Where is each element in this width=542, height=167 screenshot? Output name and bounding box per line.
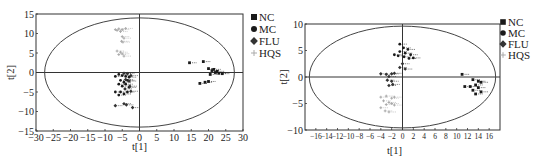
data-point (401, 62, 405, 66)
legend-label: HQS (508, 49, 530, 61)
data-point (409, 53, 412, 56)
legend-square-icon (251, 14, 257, 20)
y-tick-label: 10 (293, 19, 303, 30)
legend-item-hqs: HQS (251, 47, 281, 59)
x-tick-label: 14 (475, 132, 483, 141)
y-axis-label: t[2] (5, 65, 16, 80)
data-point (412, 57, 415, 60)
series-nc (461, 73, 488, 95)
data-point (123, 87, 127, 91)
y-tick-label: −5 (23, 87, 34, 98)
x-tick-label: 4 (422, 132, 426, 141)
data-point (477, 86, 480, 89)
x-tick-label: −8 (355, 132, 363, 141)
x-tick-label: −2 (388, 132, 396, 141)
data-point (385, 103, 388, 106)
y-tick-label: 10 (24, 28, 34, 39)
data-point (480, 90, 483, 93)
x-tick-label: 2 (411, 132, 415, 141)
data-point (123, 37, 126, 40)
data-point (393, 96, 396, 99)
data-point (212, 68, 215, 71)
data-point (207, 67, 210, 70)
x-tick-label: 16 (485, 132, 493, 141)
x-tick-label: −10 (97, 132, 113, 143)
legend-cross-icon (251, 50, 257, 56)
x-tick-label: −25 (45, 132, 61, 143)
data-point (114, 104, 118, 108)
x-tick-label: 25 (221, 132, 231, 143)
data-point (209, 73, 212, 76)
data-point (129, 89, 133, 93)
data-point (382, 99, 385, 102)
x-axis-label: t[1] (132, 141, 147, 152)
data-point (472, 78, 475, 81)
data-point (398, 50, 401, 53)
y-tick-label: −15 (18, 126, 34, 137)
data-point (119, 91, 122, 94)
data-point (188, 61, 191, 64)
x-tick-label: −6 (366, 132, 374, 141)
figure: −30−25−20−15−10−5051015202530−15−10−5051… (0, 0, 542, 167)
x-tick-label: 20 (204, 132, 214, 143)
legend-item-mc: MC (251, 23, 276, 35)
data-point (384, 73, 388, 77)
data-point (387, 75, 391, 79)
data-point (121, 85, 124, 88)
legend-label: HQS (259, 47, 281, 59)
legend-item-flu: FLU (250, 35, 280, 47)
data-point (393, 53, 396, 56)
x-tick-label: 30 (238, 132, 248, 143)
data-point (386, 78, 390, 82)
data-point (114, 75, 117, 78)
data-point (461, 73, 464, 76)
legend-cross-icon (500, 52, 506, 58)
y-tick-label: −10 (18, 106, 34, 117)
data-point (379, 72, 383, 76)
data-point (390, 72, 394, 76)
x-tick-label: 10 (453, 132, 461, 141)
legend-circle-icon (500, 30, 506, 36)
x-tick-label: 12 (464, 132, 472, 141)
score-plot-right: −16−14−12−10−8−6−4−20246810121416−10−505… (278, 19, 500, 157)
data-point (121, 35, 124, 38)
x-tick-label: 0 (401, 132, 405, 141)
data-point (123, 55, 126, 58)
y-tick-label: 5 (29, 48, 34, 59)
data-point (393, 104, 396, 107)
x-tick-label: −5 (117, 132, 128, 143)
data-point (463, 85, 466, 88)
data-point (117, 73, 120, 76)
legend-diamond-icon (250, 37, 258, 45)
data-point (117, 94, 120, 97)
data-point (408, 57, 411, 60)
series-mc (393, 43, 420, 60)
x-tick-label: −4 (377, 132, 385, 141)
y-tick-label: 0 (298, 72, 303, 83)
data-point (403, 67, 407, 71)
y-tick-label: 15 (24, 9, 34, 20)
data-point (379, 106, 382, 109)
data-point (397, 54, 400, 57)
data-point (388, 101, 391, 104)
data-point (116, 50, 119, 53)
x-tick-label: −20 (63, 132, 79, 143)
legend-label: MC (259, 23, 276, 35)
legend-left: NCMCFLUHQS (250, 11, 281, 59)
data-point (198, 82, 201, 85)
x-tick-label: 8 (444, 132, 448, 141)
x-tick-label: 6 (433, 132, 437, 141)
data-point (126, 91, 129, 94)
y-tick-label: −10 (287, 125, 303, 136)
data-point (402, 46, 405, 49)
data-point (204, 81, 207, 84)
x-tick-label: 10 (169, 132, 179, 143)
data-point (472, 89, 475, 92)
x-tick-label: 5 (154, 132, 159, 143)
data-point (384, 110, 387, 113)
score-plot-left: −30−25−20−15−10−5051015202530−15−10−5051… (5, 9, 248, 153)
data-point (474, 93, 477, 96)
legend-item-nc: NC (251, 11, 274, 23)
data-point (407, 48, 410, 51)
data-point (477, 80, 480, 83)
